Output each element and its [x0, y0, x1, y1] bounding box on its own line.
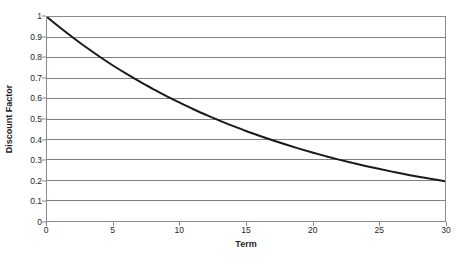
y-axis-tick-label: 0.3 [2, 156, 42, 165]
y-axis-tick-label: 0.4 [2, 135, 42, 144]
x-axis-tick-label: 0 [26, 226, 66, 235]
x-axis-tick-label: 30 [426, 226, 466, 235]
y-axis-tick-label: 0.9 [2, 32, 42, 41]
chart-figure: Discount Factor 00.10.20.30.40.50.60.70.… [0, 0, 467, 272]
series-line [47, 17, 445, 181]
discount-factor-curve [47, 17, 445, 221]
x-axis-tick-label: 20 [293, 226, 333, 235]
y-axis-tick-label: 0.7 [2, 74, 42, 83]
y-axis-tick-label: 0 [2, 218, 42, 227]
plot-area [46, 16, 446, 222]
y-axis-tick-label: 0.5 [2, 115, 42, 124]
x-axis-title: Term [46, 240, 446, 249]
x-axis-tick-label: 15 [226, 226, 266, 235]
y-axis-tick-label: 0.1 [2, 197, 42, 206]
y-axis-tick-label: 0.8 [2, 53, 42, 62]
x-axis-tick-label: 25 [359, 226, 399, 235]
y-axis-tick-label: 0.6 [2, 94, 42, 103]
y-axis-tick-label: 1 [2, 12, 42, 21]
x-axis-tick-label: 10 [159, 226, 199, 235]
x-axis-tick-label: 5 [93, 226, 133, 235]
y-axis-tick-label: 0.2 [2, 177, 42, 186]
